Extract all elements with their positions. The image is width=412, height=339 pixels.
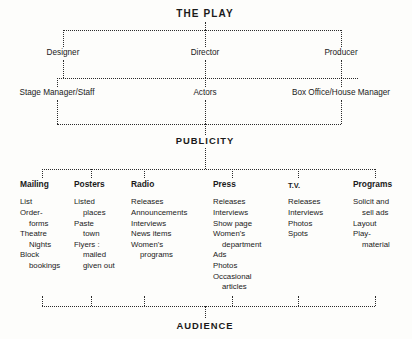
connector-stem-radio [144,296,145,306]
list-item: department [213,240,261,251]
list-item: Women's [131,240,187,251]
connector-publicity-out-stem [205,148,206,169]
chart-title: THE PLAY [176,9,233,19]
list-item: Releases [213,197,261,208]
column-header-radio: Radio [131,180,187,188]
list-item: Layout [353,219,392,230]
list-item: forms [20,219,60,230]
list-item: Photos [213,261,261,272]
column-header-programs: Programs [353,180,392,188]
list-item: List [20,197,60,208]
connector-stem-box-office [341,100,342,124]
list-item: Interviews [131,219,187,230]
column-items-tv: Releases Interviews Photos Spots [288,197,323,239]
connector-drop-stage-manager [57,78,58,87]
list-item: Play- [353,229,392,240]
connector-drop-designer [63,30,64,47]
list-item: Photos [288,219,323,230]
list-item: Interviews [213,208,261,219]
connector-drop-director [205,30,206,47]
list-item: Ads [213,250,261,261]
column-items-programs: Solicit and sell ads Layout Play- materi… [353,197,392,250]
list-item: Order- [20,208,60,219]
list-item: Occasional [213,272,261,283]
column-items-posters: Listed places Paste town Flyers : mailed… [74,197,115,271]
list-item: bookings [20,261,60,272]
connector-stem-producer [341,60,342,78]
org-chart-diagram: THE PLAY Designer Director Producer Stag… [0,0,412,339]
column-tv: T.V. Releases Interviews Photos Spots [288,180,323,240]
list-item: Nights [20,240,60,251]
connector-stem-stage-manager [57,100,58,124]
column-header-posters: Posters [74,180,115,188]
connector-audience-stem [205,306,206,318]
list-item: Theatre [20,229,60,240]
connector-stem-mailing [42,296,43,306]
list-item: places [74,208,115,219]
list-item: Releases [288,197,323,208]
list-item: Announcements [131,208,187,219]
list-item: material [353,240,392,251]
list-item: sell ads [353,208,392,219]
column-posters: Posters Listed places Paste town Flyers … [74,180,115,272]
list-item: Spots [288,229,323,240]
column-items-mailing: List Order- forms Theatre Nights Block b… [20,197,60,271]
connector-stem-programs [375,296,376,306]
list-item: articles [213,282,261,293]
list-item: Flyers : [74,240,115,251]
connector-stem-posters [91,296,92,306]
list-item: Paste [74,219,115,230]
connector-publicity-bus [57,124,341,125]
connector-stem-press [232,296,233,306]
connector-audience-bus [42,306,375,307]
column-radio: Radio Releases Announcements Interviews … [131,180,187,261]
connector-drop-programs [375,169,376,178]
list-item: Releases [131,197,187,208]
connector-drop-box-office [341,78,342,87]
connector-drop-radio [144,169,145,178]
column-items-press: Releases Interviews Show page Women's de… [213,197,261,292]
column-header-tv: T.V. [288,182,323,189]
connector-tier2-bus [57,78,358,79]
connector-drop-producer [341,30,342,47]
connector-drop-mailing [42,169,43,178]
connector-drop-tv [298,169,299,178]
node-actors: Actors [193,89,216,97]
node-designer: Designer [47,49,80,57]
connector-stem-director [205,60,206,78]
connector-drop-press [232,169,233,178]
node-box-office-house-manager: Box Office/House Manager [292,89,390,97]
node-stage-manager-staff: Stage Manager/Staff [20,89,95,97]
connector-drop-actors [205,78,206,87]
column-items-radio: Releases Announcements Interviews News i… [131,197,187,261]
list-item: given out [74,261,115,272]
connector-publicity-in-stem [205,124,206,135]
column-programs: Programs Solicit and sell ads Layout Pla… [353,180,392,250]
column-mailing: Mailing List Order- forms Theatre Nights… [20,180,60,272]
column-header-press: Press [213,180,261,188]
connector-play-stem [205,22,206,30]
node-producer: Producer [324,49,357,57]
list-item: Interviews [288,208,323,219]
node-publicity: PUBLICITY [176,136,234,145]
list-item: News items [131,229,187,240]
list-item: Women's [213,229,261,240]
connector-tier1-bus [63,30,341,31]
list-item: mailed [74,250,115,261]
connector-stem-actors [205,100,206,124]
list-item: Block [20,250,60,261]
list-item: Show page [213,219,261,230]
node-audience: AUDIENCE [177,321,234,330]
node-director: Director [191,49,220,57]
connector-stem-tv [298,296,299,306]
list-item: Listed [74,197,115,208]
list-item: town [74,229,115,240]
column-press: Press Releases Interviews Show page Wome… [213,180,261,293]
list-item: Solicit and [353,197,392,208]
column-header-mailing: Mailing [20,180,60,188]
list-item: programs [131,250,187,261]
connector-drop-posters [91,169,92,178]
connector-stem-designer [63,60,64,78]
